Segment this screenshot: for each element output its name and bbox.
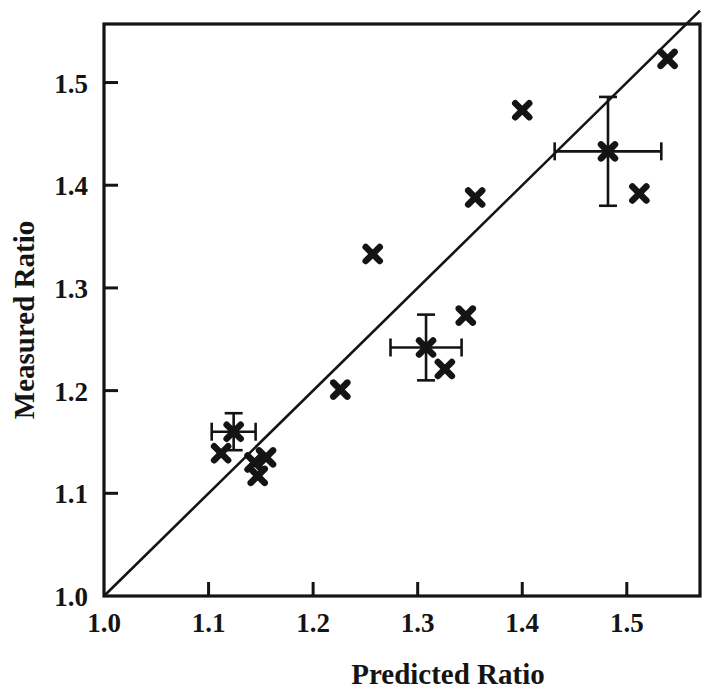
x-tick-label-0: 1.0 bbox=[87, 608, 121, 638]
y-tick-label-1: 1.1 bbox=[54, 479, 88, 509]
data-point-0 bbox=[214, 446, 228, 460]
x-tick-label-2: 1.2 bbox=[296, 608, 330, 638]
x-tick-label-5: 1.5 bbox=[610, 608, 644, 638]
data-point-8 bbox=[468, 191, 482, 205]
data-point-9 bbox=[515, 103, 529, 117]
x-axis-title: Predicted Ratio bbox=[351, 658, 545, 689]
x-tick-label-4: 1.4 bbox=[505, 608, 539, 638]
y-tick-label-4: 1.4 bbox=[54, 171, 88, 201]
identity-reference-line bbox=[104, 11, 700, 596]
data-point-4 bbox=[333, 383, 347, 397]
x-tick-label-1: 1.1 bbox=[192, 608, 226, 638]
y-tick-label-3: 1.3 bbox=[54, 274, 88, 304]
data-point-7 bbox=[459, 309, 473, 323]
axes-box bbox=[104, 24, 700, 596]
mean-point-1 bbox=[390, 315, 461, 381]
scatter-plot: 1.01.11.21.31.41.51.01.11.21.31.41.5Pred… bbox=[0, 0, 722, 689]
data-point-5 bbox=[366, 247, 380, 261]
x-tick-label-3: 1.3 bbox=[401, 608, 435, 638]
y-tick-label-5: 1.5 bbox=[54, 69, 88, 99]
plot-frame bbox=[104, 24, 700, 596]
data-point-3 bbox=[251, 469, 265, 483]
mean-point-0 bbox=[212, 413, 256, 450]
data-point-10 bbox=[632, 186, 646, 200]
mean-point-square-2 bbox=[603, 146, 613, 156]
mean-point-square-0 bbox=[229, 427, 239, 437]
chart-page: 1.01.11.21.31.41.51.01.11.21.31.41.5Pred… bbox=[0, 0, 722, 689]
y-axis-title: Measured Ratio bbox=[8, 221, 40, 419]
data-point-11 bbox=[661, 52, 675, 66]
data-point-6 bbox=[438, 362, 452, 376]
y-tick-label-2: 1.2 bbox=[54, 377, 88, 407]
y-tick-label-0: 1.0 bbox=[54, 582, 88, 612]
mean-point-group bbox=[212, 97, 662, 450]
mean-point-square-1 bbox=[421, 342, 431, 352]
